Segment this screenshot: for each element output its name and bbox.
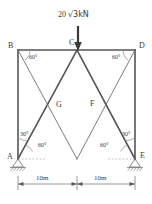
node-label-B: B <box>8 42 13 50</box>
load-radical: √3kN <box>68 10 89 19</box>
dim-label-left-span: 10m <box>36 175 48 182</box>
angle-label-A-60: 60° <box>38 142 46 148</box>
diagonal-members <box>18 50 135 159</box>
support-E <box>127 159 143 171</box>
arc-angle-D <box>123 50 128 60</box>
angle-label-A-30: 30° <box>20 131 28 137</box>
node-label-A: A <box>7 153 13 161</box>
angle-label-E-30: 30° <box>122 131 130 137</box>
arc-angle-E-30 <box>125 138 136 141</box>
arc-angle-A-30 <box>18 138 29 141</box>
node-label-D: D <box>139 42 145 50</box>
angle-label-D: 60° <box>112 54 120 60</box>
node-label-C: C <box>69 39 74 47</box>
structural-diagram-canvas: 20 √3kN B C D G F A E 60° 60° 30° 60° 30… <box>0 0 152 204</box>
node-label-G: G <box>56 101 62 109</box>
arc-angle-A-60 <box>26 145 33 151</box>
load-magnitude-label: 20 √3kN <box>58 11 89 19</box>
brace-members <box>18 50 135 159</box>
frame-truss-drawing <box>0 0 152 204</box>
angle-label-B: 60° <box>29 54 37 60</box>
frame-members <box>18 50 135 159</box>
arc-angle-E-60 <box>120 145 127 151</box>
node-label-E: E <box>140 152 145 160</box>
angle-arcs <box>18 50 135 152</box>
load-arrow <box>74 26 82 51</box>
dim-label-right-span: 10m <box>94 175 106 182</box>
node-label-F: F <box>90 100 94 108</box>
angle-label-E-60: 60° <box>100 142 108 148</box>
load-value: 20 <box>58 10 66 19</box>
